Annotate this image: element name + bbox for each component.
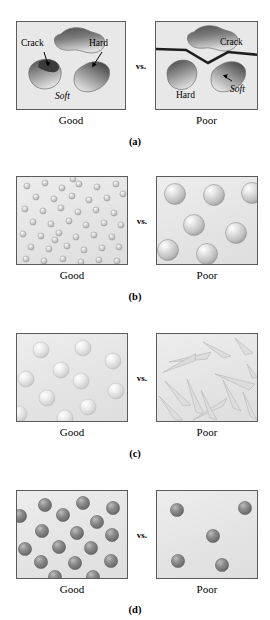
vs-separator-d: vs. (129, 530, 155, 540)
panel-d-poor-particles (157, 491, 258, 579)
panel-d-good-particles (17, 491, 128, 579)
dark-particle-group-good (16, 496, 120, 579)
dark-particle-group-poor (170, 501, 251, 571)
panel-d: vs. Good Poor (d) (0, 0, 270, 620)
caption-poor-d: Poor (156, 583, 258, 595)
figure-root: Crack Hard Soft vs. (0, 0, 270, 620)
panel-letter-d: (d) (0, 604, 270, 615)
panel-d-poor-box (156, 490, 258, 579)
caption-good-d: Good (16, 583, 128, 595)
panel-d-good-box (16, 490, 128, 579)
